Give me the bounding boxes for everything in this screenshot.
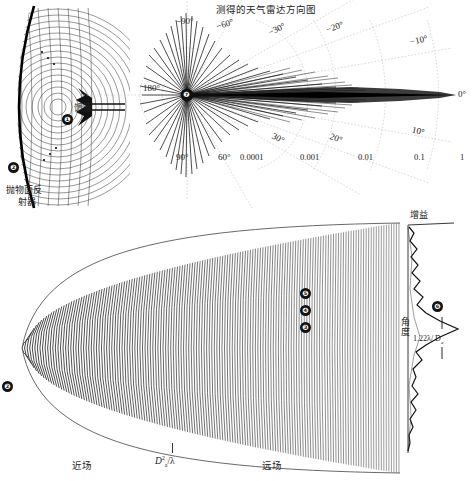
feed-source-label: 馈源 [74, 101, 92, 114]
formula-tail: /λ [167, 456, 174, 466]
beamwidth-subscript: a [441, 340, 443, 345]
badge-aperture: ❸ [300, 322, 311, 333]
polar-chart [140, 0, 472, 175]
polar-angle-label-180: 180° [143, 83, 160, 93]
reflector-panel: 馈源 ❶ ❷ 抛物面反 射器 [0, 0, 150, 215]
gain-profile-panel: 增益 角度 ❻ 1.22λ/ Da [396, 205, 472, 461]
beamwidth-annotation: 1.22λ/ Da [413, 334, 443, 345]
polar-radial-label-0p01: 0.01 [358, 152, 373, 162]
polar-angle-label-90: 90° [176, 152, 189, 162]
badge-fraunhofer: ❺ [300, 288, 311, 299]
ray-dots [41, 51, 57, 161]
beam-diagram [0, 215, 400, 481]
polar-radial-label-0p0001: 0.0001 [240, 152, 263, 162]
angle-axis-label: 角度 [399, 317, 412, 337]
polar-angle-label-0: 0° [458, 89, 466, 99]
badge-reflector: ❷ [8, 162, 19, 173]
polar-radial-label-0p001: 0.001 [300, 152, 319, 162]
badge-gain-lobe: ❻ [432, 301, 443, 312]
near-field-label: 近场 [72, 458, 92, 472]
reflector-label-line2: 射器 [18, 195, 36, 208]
polar-angle-label-60: 60° [218, 152, 231, 162]
polar-radial-label-0p1: 0.1 [414, 152, 425, 162]
beamwidth-text: 1.22λ/ D [413, 334, 441, 343]
badge-beam-origin: ❷ [2, 381, 13, 392]
gain-axis-label: 增益 [410, 208, 428, 221]
formula-exponent: 2 [162, 455, 165, 461]
field-boundary-tick [172, 443, 173, 453]
polar-angle-label-neg90: −90° [176, 16, 194, 26]
beam-interference-fringes [22, 222, 404, 474]
formula-D: D [155, 456, 162, 466]
field-boundary-formula: D2a/λ [155, 455, 175, 468]
polar-chart-title: 测得的天气雷达方向图 [216, 2, 316, 16]
gain-axis-horizontal [408, 223, 454, 225]
badge-polar-center: ❼ [181, 89, 192, 100]
polar-pattern-panel: 测得的天气雷达方向图 [140, 0, 472, 175]
polar-radial-label-1: 1 [460, 152, 464, 162]
badge-feed: ❶ [62, 114, 73, 125]
far-field-label: 远场 [262, 458, 282, 472]
badge-fresnel: ❹ [300, 305, 311, 316]
beam-field-panel: ❸ ❹ ❺ ❷ 近场 远场 D2a/λ [0, 215, 400, 481]
